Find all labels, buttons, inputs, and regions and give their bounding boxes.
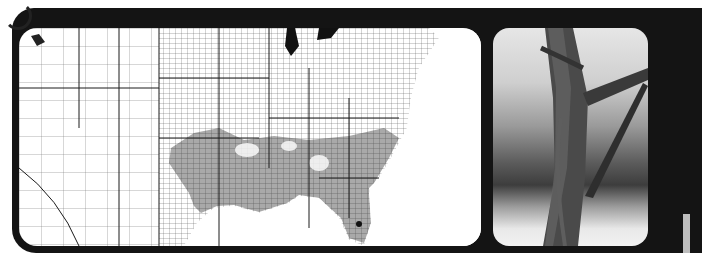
page-bottom-margin bbox=[0, 253, 690, 259]
distribution-map bbox=[19, 28, 481, 246]
us-county-map bbox=[19, 28, 481, 246]
corner-mark bbox=[4, 2, 32, 30]
vine-photo bbox=[493, 28, 648, 246]
vine-photo-image bbox=[493, 28, 648, 246]
